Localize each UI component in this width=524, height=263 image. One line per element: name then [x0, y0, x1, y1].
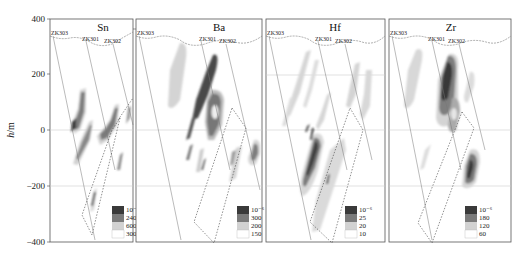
legend-zr-level-1: 180 [479, 214, 490, 222]
legend-hf-level-1: 25 [359, 214, 367, 222]
panel-title-zr: Zr [446, 21, 457, 33]
panel-ba: Ba ZK303 ZK301 ZK302 10⁻⁶ 300 200 150 [136, 19, 265, 243]
legend-hf-level-2: 20 [359, 222, 367, 230]
legend-sn-level-2: 600 [126, 222, 137, 230]
y-tick-400: 400 [32, 14, 46, 24]
panel-zr: Zr ZK303 ZK301 ZK302 10⁻⁶ 180 120 60 [389, 19, 511, 243]
legend-ba-level-1: 300 [251, 214, 262, 222]
drillhole-label-zk302: ZK302 [335, 38, 352, 44]
panel-title-ba: Ba [213, 21, 225, 33]
y-tick-neg400: −400 [26, 237, 45, 247]
drillhole-label-zk303: ZK303 [137, 30, 154, 36]
panel-title-hf: Hf [329, 21, 341, 33]
y-tick-neg200: −200 [26, 181, 45, 191]
drillhole-label-zk302: ZK302 [448, 38, 465, 44]
y-axis-label: h/m [5, 122, 16, 138]
drillhole-label-zk303: ZK303 [267, 30, 284, 36]
svg-text:h/m: h/m [5, 122, 16, 138]
drillhole-label-zk301: ZK301 [199, 36, 216, 42]
legend-zr-level-3: 60 [479, 230, 487, 238]
drillhole-label-zk302: ZK302 [104, 38, 121, 44]
legend-zr-level-2: 120 [479, 222, 490, 230]
drillhole-label-zk301: ZK301 [82, 36, 99, 42]
y-axis: 400 200 0 −200 −400 h/m [5, 14, 50, 247]
panel-hf: Hf ZK303 ZK301 ZK302 10⁻⁶ 25 20 10 [266, 19, 385, 243]
legend-ba-level-3: 150 [251, 230, 262, 238]
drillhole-label-zk302: ZK302 [219, 38, 236, 44]
drillhole-label-zk303: ZK303 [51, 30, 68, 36]
drillhole-label-zk301: ZK301 [428, 36, 445, 42]
geochemical-section-figure: 400 200 0 −200 −400 h/m [0, 0, 524, 263]
legend-hf-unit: 10⁻⁶ [359, 206, 373, 214]
legend-ba-unit: 10⁻⁶ [251, 206, 265, 214]
legend-hf-level-3: 10 [359, 230, 367, 238]
drillhole-label-zk301: ZK301 [315, 36, 332, 42]
y-tick-200: 200 [32, 69, 46, 79]
y-tick-0: 0 [41, 125, 46, 135]
panel-title-sn: Sn [97, 21, 109, 33]
legend-zr-unit: 10⁻⁶ [479, 206, 493, 214]
drillhole-label-zk303: ZK303 [390, 30, 407, 36]
legend-ba: 10⁻⁶ 300 200 150 [237, 206, 265, 238]
legend-sn-level-3: 300 [126, 230, 137, 238]
legend-ba-level-2: 200 [251, 222, 262, 230]
